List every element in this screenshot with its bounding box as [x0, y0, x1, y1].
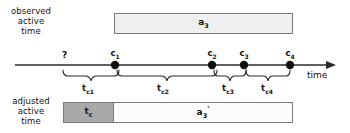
adjusted-bar-a3prime-text: a3': [197, 105, 210, 120]
observed-bar-subscript: 3: [204, 22, 209, 30]
brace-tc4: [246, 70, 290, 81]
interval-tc2-subscript: c2: [161, 88, 169, 95]
axis-title-time: time: [307, 70, 327, 80]
adjusted-bar-a3prime-segment: a3': [114, 103, 292, 122]
interval-label-tc3: tc3: [222, 83, 234, 95]
axis-arrow-icon: [326, 61, 336, 69]
adjusted-bar-tc-segment: tc: [64, 103, 114, 122]
observed-active-time-label: observed active time: [2, 6, 60, 36]
interval-tc1-subscript: c1: [86, 88, 94, 95]
event-dot-c1: [111, 61, 119, 69]
brace-tc1: [63, 70, 119, 81]
adjusted-active-time-bar: tc a3': [63, 102, 293, 123]
active-time-diagram: observed active time a3 ? c1 c2 c3 c4 tc…: [0, 0, 350, 133]
tick-c1-subscript: 1: [115, 53, 119, 60]
adjusted-bar-tc-text: tc: [84, 106, 92, 119]
event-dot-c3: [240, 61, 248, 69]
adjusted-tc-subscript: c: [89, 111, 93, 119]
observed-bar-text: a3: [198, 17, 209, 30]
timeline-axis: [0, 40, 350, 98]
adjusted-a3prime-prime: ': [207, 105, 209, 113]
tick-c4-subscript: 4: [290, 53, 294, 60]
brace-tc2: [117, 70, 217, 81]
interval-tc3-subscript: c3: [226, 88, 234, 95]
observed-label-line-1: observed: [2, 6, 60, 16]
adjusted-label-line-1: adjusted: [2, 96, 60, 106]
tick-c2-subscript: 2: [212, 53, 216, 60]
interval-label-tc4: tc4: [261, 83, 273, 95]
observed-active-time-bar: a3: [114, 13, 293, 34]
adjusted-label-line-2: active: [2, 106, 60, 116]
adjusted-active-time-label: adjusted active time: [2, 96, 60, 126]
brace-tc3: [214, 70, 246, 81]
unknown-start-marker: ?: [62, 50, 67, 60]
adjusted-label-line-3: time: [2, 116, 60, 126]
observed-label-line-3: time: [2, 26, 60, 36]
tick-label-c2: c2: [207, 48, 216, 60]
tick-label-c3: c3: [239, 48, 248, 60]
tick-c3-subscript: 3: [244, 53, 248, 60]
tick-label-c1: c1: [110, 48, 119, 60]
interval-label-tc2: tc2: [157, 83, 169, 95]
observed-label-line-2: active: [2, 16, 60, 26]
interval-label-tc1: tc1: [82, 83, 94, 95]
interval-tc4-subscript: c4: [265, 88, 273, 95]
tick-label-c4: c4: [285, 48, 294, 60]
event-dot-c4: [286, 61, 294, 69]
event-dot-c2: [208, 61, 216, 69]
